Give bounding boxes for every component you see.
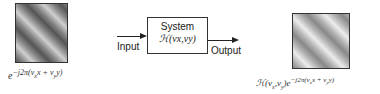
output-label: Output bbox=[211, 45, 241, 56]
output-arrow-head bbox=[232, 37, 239, 43]
input-label: Input bbox=[117, 41, 139, 52]
input-arrow-line bbox=[117, 36, 141, 37]
output-image-label: ℋ(νx,νy)e−j2π(νxx + νyy) bbox=[256, 76, 334, 90]
system-transfer-function: ℋ(νx,νy) bbox=[148, 33, 207, 44]
input-arrow-head bbox=[140, 33, 147, 39]
system-block: System ℋ(νx,νy) bbox=[147, 17, 208, 54]
system-title: System bbox=[148, 21, 207, 32]
input-pattern-image bbox=[15, 3, 68, 63]
input-image-label: e−j2π(νxx + νyy) bbox=[8, 68, 62, 81]
output-arrow-line bbox=[208, 40, 233, 41]
output-pattern-image bbox=[292, 13, 350, 69]
